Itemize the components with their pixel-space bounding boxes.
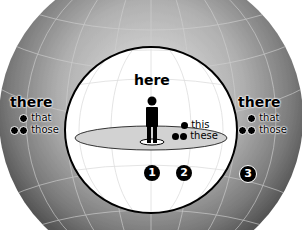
single-dot-icon	[247, 114, 256, 123]
double-dot-icon	[238, 126, 247, 135]
label-those: those	[259, 124, 287, 135]
deixis-diagram: here this these there that those there t…	[0, 0, 302, 230]
single-dot-icon	[181, 122, 188, 129]
label-that: that	[31, 112, 51, 123]
marker-1: 1	[144, 165, 160, 181]
inner-title: here	[134, 72, 170, 88]
single-dot-icon	[19, 114, 28, 123]
marker-2: 2	[176, 165, 192, 181]
label-these: these	[190, 130, 218, 141]
marker-3: 3	[239, 165, 257, 183]
left-outer-group: there that those	[10, 94, 59, 136]
right-outer-group: there that those	[238, 94, 287, 136]
label-that: that	[259, 112, 279, 123]
label-this: this	[191, 119, 209, 130]
left-there-title: there	[10, 94, 59, 110]
right-there-title: there	[238, 94, 287, 110]
double-dot-icon	[172, 133, 179, 140]
speaker-base	[140, 139, 164, 145]
double-dot-icon	[10, 126, 19, 135]
proximal-group: this these	[172, 119, 218, 141]
label-those: those	[31, 124, 59, 135]
